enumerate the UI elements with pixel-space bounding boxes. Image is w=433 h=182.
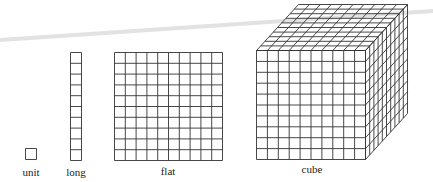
cube-label: cube [302, 163, 323, 175]
flat-label: flat [161, 165, 176, 177]
base-ten-blocks-diagram [0, 0, 433, 182]
long-block [71, 53, 82, 161]
long-label: long [66, 166, 86, 178]
unit-label: unit [22, 166, 39, 178]
cube-block [257, 5, 408, 160]
flat-block [115, 53, 223, 161]
unit-block [26, 149, 37, 160]
